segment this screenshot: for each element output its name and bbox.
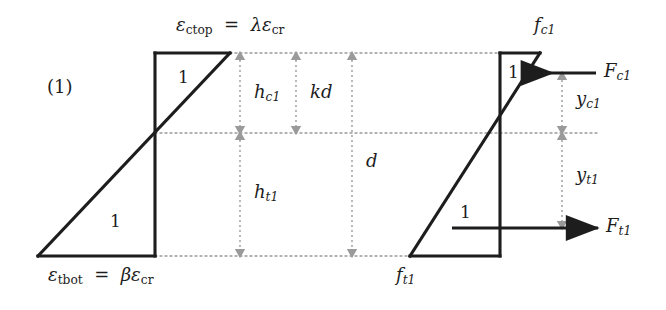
dimension-label-d: d bbox=[366, 152, 378, 170]
strain-slope-label-top: 1 bbox=[178, 69, 189, 86]
stress-profile-line bbox=[410, 53, 540, 256]
dimension-label-h-t1: ht1 bbox=[254, 183, 278, 204]
dimension-label-y-c1: yc1 bbox=[576, 90, 601, 111]
stress-bottom-label: ft1 bbox=[396, 266, 415, 287]
figure-canvas: (1) εctop = λεcr εtbot = βεcr 1 1 hc1 kd… bbox=[0, 0, 666, 310]
force-label-tension: Ft1 bbox=[606, 217, 631, 238]
strain-top-label: εctop = λεcr bbox=[176, 16, 284, 37]
dimension-label-kd: kd bbox=[310, 83, 332, 101]
dimension-label-h-c1: hc1 bbox=[254, 83, 280, 104]
case-label: (1) bbox=[47, 78, 73, 96]
strain-bottom-label: εtbot = βεcr bbox=[48, 266, 153, 287]
strain-slope-label-bottom: 1 bbox=[110, 213, 121, 230]
force-label-compression: Fc1 bbox=[604, 62, 631, 83]
dimension-label-y-t1: yt1 bbox=[576, 166, 599, 187]
stress-top-label: fc1 bbox=[534, 16, 555, 37]
stress-slope-label-bottom: 1 bbox=[460, 204, 471, 221]
stress-slope-label-top: 1 bbox=[508, 64, 519, 81]
